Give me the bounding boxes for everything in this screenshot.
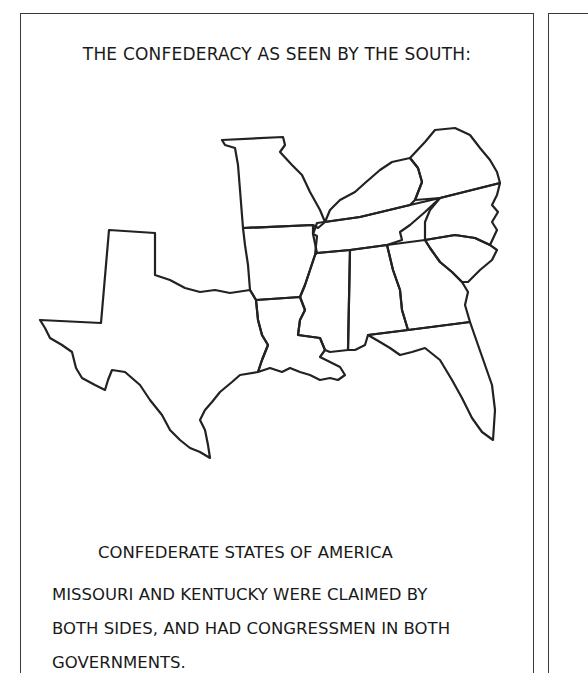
map-caption: CONFEDERATE STATES OF AMERICA — [98, 543, 393, 562]
page-title: THE CONFEDERACY AS SEEN BY THE SOUTH: — [21, 44, 533, 64]
state-louisiana — [256, 297, 345, 380]
map-svg — [10, 117, 524, 487]
state-arkansas — [243, 225, 317, 300]
state-tennessee — [313, 198, 440, 253]
state-missouri — [222, 137, 325, 228]
note-line: BOTH SIDES, AND HAD CONGRESSMEN IN BOTH — [52, 612, 532, 646]
note-line: MISSOURI AND KENTUCKY WERE CLAIMED BY — [52, 578, 532, 612]
state-florida — [368, 322, 495, 440]
adjacent-panel-edge — [548, 13, 588, 673]
state-georgia — [387, 240, 470, 330]
state-north-carolina — [425, 183, 500, 245]
state-virginia — [410, 128, 500, 200]
state-kentucky — [325, 158, 422, 222]
state-texas — [40, 230, 268, 458]
note-paragraph: MISSOURI AND KENTUCKY WERE CLAIMED BY BO… — [52, 578, 532, 677]
note-line: GOVERNMENTS. — [52, 646, 532, 677]
state-mississippi — [298, 250, 350, 352]
confederacy-outline-map — [10, 117, 524, 487]
